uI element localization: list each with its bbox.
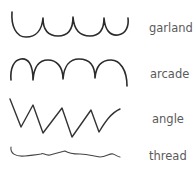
handwriting-forms-diagram: garland arcade angle thread — [0, 0, 194, 178]
arcade-stroke — [11, 59, 127, 86]
arcade-label: arcade — [150, 69, 189, 81]
garland-stroke — [12, 12, 128, 37]
angle-label: angle — [152, 114, 184, 126]
angle-stroke — [10, 99, 120, 137]
thread-label: thread — [149, 151, 187, 163]
garland-label: garland — [149, 23, 193, 35]
thread-stroke — [11, 147, 120, 157]
